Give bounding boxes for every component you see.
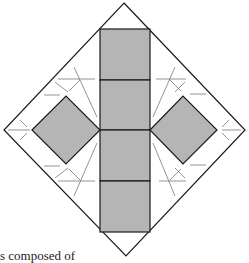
- column-square-1: [100, 29, 150, 80]
- column-square-4: [100, 181, 150, 232]
- column-square-2: [100, 80, 150, 130]
- square-column: [100, 29, 150, 232]
- caption-text: s composed of: [0, 249, 75, 262]
- column-square-3: [100, 130, 150, 181]
